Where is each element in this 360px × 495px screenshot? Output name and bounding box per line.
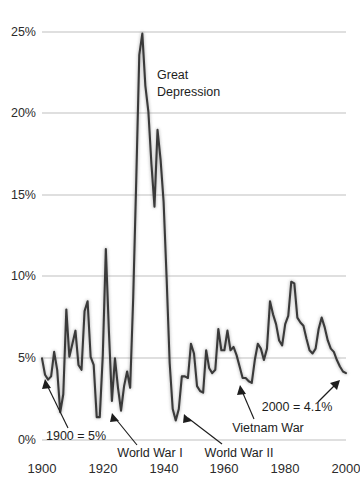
vietnam-war-arrow-head xyxy=(237,385,246,395)
y-axis-tick-labels: 25% 20% 15% 10% 5% 0% xyxy=(11,25,36,447)
x-tick-label-1960: 1960 xyxy=(210,461,239,476)
start-value-label: 1900 = 5% xyxy=(46,429,106,443)
y-tick-label-0: 0% xyxy=(18,433,36,447)
x-tick-label-1920: 1920 xyxy=(89,461,118,476)
y-tick-label-15: 15% xyxy=(11,188,36,202)
x-tick-label-1980: 1980 xyxy=(271,461,300,476)
x-axis-tick-labels: 1900 1920 1940 1960 1980 2000 xyxy=(28,461,360,476)
chart-container: 25% 20% 15% 10% 5% 0% 1900 1920 1940 196… xyxy=(0,0,360,495)
annotation-world-war-i: World War I xyxy=(110,413,183,460)
world-war-ii-arrow-head xyxy=(183,414,192,423)
world-war-i-label: World War I xyxy=(117,446,182,460)
start-value-arrow-head xyxy=(42,379,51,389)
x-tick-label-1900: 1900 xyxy=(28,461,57,476)
great-depression-label-line2: Depression xyxy=(157,85,220,99)
world-war-i-arrow-line xyxy=(115,418,137,445)
y-tick-label-10: 10% xyxy=(11,269,36,283)
great-depression-label-line1: Great xyxy=(157,68,189,82)
annotation-end-value: 2000 = 4.1% xyxy=(262,380,340,414)
y-tick-label-25: 25% xyxy=(11,25,36,39)
annotation-great-depression: Great Depression xyxy=(157,68,220,99)
vietnam-war-label: Vietnam War xyxy=(232,421,304,435)
world-war-i-arrow-head xyxy=(110,413,119,422)
end-value-label: 2000 = 4.1% xyxy=(262,400,333,414)
y-tick-label-5: 5% xyxy=(18,351,36,365)
y-tick-label-20: 20% xyxy=(11,106,36,120)
world-war-ii-label: World War II xyxy=(205,446,274,460)
vietnam-war-arrow-line xyxy=(242,391,254,419)
x-tick-label-2000: 2000 xyxy=(332,461,360,476)
x-tick-label-1940: 1940 xyxy=(150,461,179,476)
unemployment-rate-line-chart: 25% 20% 15% 10% 5% 0% 1900 1920 1940 196… xyxy=(0,0,360,495)
